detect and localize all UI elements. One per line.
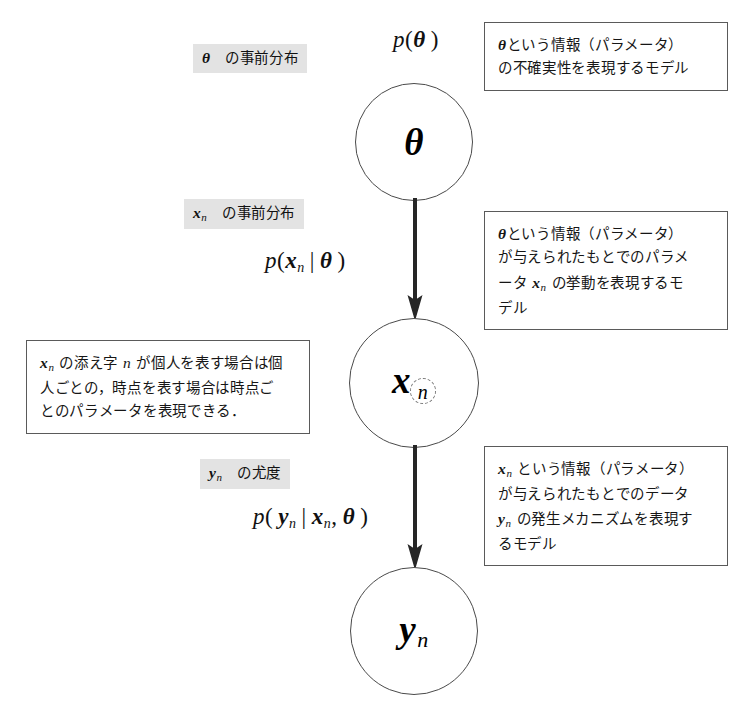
note-line: θという情報（パラメータ） (498, 221, 716, 246)
node-x-n-label: xn (392, 362, 436, 404)
diagram-canvas: θ の事前分布 p(θ ) θという情報（パラメータ） の不確実性を表現するモデ… (0, 0, 753, 721)
note-box-y: xn という情報（パラメータ） が与えられたもとでのデータ yn の発生メカニズ… (484, 446, 728, 566)
note-line: デル (498, 297, 716, 320)
note-line: が与えられたもとでのパラメ (498, 246, 716, 269)
note-line: が与えられたもとでのデータ (498, 483, 716, 506)
note-line: ータ xn の挙動を表現するモ (498, 270, 716, 297)
arrow-theta-to-x (400, 198, 430, 322)
node-theta: θ (355, 83, 473, 201)
note-line: xn という情報（パラメータ） (498, 456, 716, 483)
subscript-n-dashed-circle: n (410, 378, 436, 404)
note-line: とのパラメータを表現できる． (40, 400, 298, 423)
note-line: xn の添え字 n が個人を表す場合は個 (40, 350, 298, 377)
side-label-y-likelihood: yn の尤度 (200, 459, 290, 489)
note-line: θという情報（パラメータ） (498, 32, 716, 57)
note-line: 人ごとの，時点を表す場合は時点ご (40, 377, 298, 400)
formula-p-x-given-theta: p(xn | θ ) (265, 248, 346, 276)
note-box-x: θという情報（パラメータ） が与えられたもとでのパラメ ータ xn の挙動を表現… (484, 211, 728, 330)
note-box-theta: θという情報（パラメータ） の不確実性を表現するモデル (484, 22, 728, 91)
note-line: るモデル (498, 533, 716, 556)
node-y-n: yn (350, 567, 478, 695)
formula-p-y-given-x-theta: p( yn | xn, θ ) (253, 504, 368, 532)
label-theta-symbol: θ (202, 49, 211, 66)
note-box-x-subscript: xn の添え字 n が個人を表す場合は個 人ごとの，時点を表す場合は時点ご との… (26, 340, 310, 434)
side-label-x-prior: xn の事前分布 (184, 199, 304, 229)
formula-p-theta: p(θ ) (393, 27, 439, 53)
node-y-n-label: yn (399, 611, 428, 651)
note-line: yn の発生メカニズムを表現す (498, 506, 716, 533)
node-x-n: xn (349, 318, 479, 448)
note-line: の不確実性を表現するモデル (498, 57, 716, 80)
arrow-x-to-y (400, 445, 430, 571)
node-theta-label: θ (404, 124, 424, 161)
side-label-theta-prior: θ の事前分布 (193, 44, 307, 73)
